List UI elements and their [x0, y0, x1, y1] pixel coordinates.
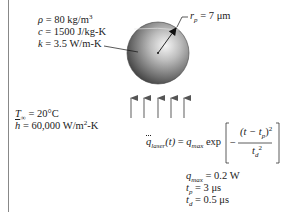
exp-numerator: (t − tp)2: [240, 126, 272, 137]
heat-transfer-coeff-label: h = 60,000 W/m2-K: [15, 120, 98, 132]
ambient-temp-label: T∞ = 20°C: [15, 108, 59, 120]
qmax-param: qmax = 0.2 W: [186, 170, 240, 182]
density-label: ρ = 80 kg/m3: [38, 14, 92, 26]
specific-heat-label: c = 1500 J/kg-K: [38, 26, 106, 38]
laser-equation-lhs: qlaser(t) = qmax exp: [146, 136, 221, 147]
laser-arrows: [131, 98, 184, 118]
td-param: td = 0.5 μs: [186, 194, 229, 206]
exp-minus-sign: −: [230, 137, 236, 148]
tp-param: tp = 3 μs: [186, 182, 221, 194]
radius-label: rp = 7 μm: [190, 10, 230, 22]
conductivity-label: k = 3.5 W/m-K: [38, 38, 101, 50]
exp-denominator: td2: [252, 145, 262, 156]
